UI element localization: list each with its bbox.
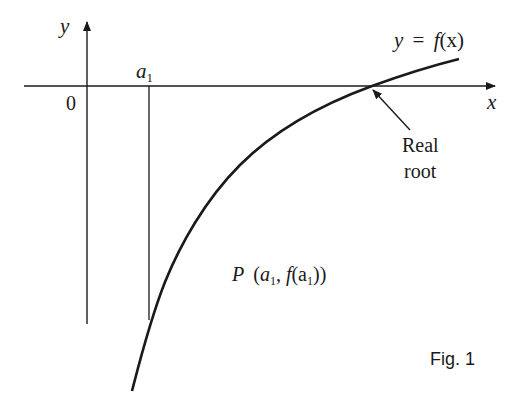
curve-label: y = f(x) xyxy=(392,28,464,52)
real-root-label-line1: Real xyxy=(402,134,439,156)
origin-label: 0 xyxy=(66,92,76,114)
root-arrow xyxy=(373,90,410,130)
point-p-label: P (a1, f(a1)) xyxy=(231,263,326,288)
figure-caption: Fig. 1 xyxy=(430,349,475,369)
x-axis-label: x xyxy=(486,90,497,114)
y-axis-label: y xyxy=(58,14,70,38)
real-root-label-line2: root xyxy=(404,160,437,182)
newton-method-diagram: y x 0 a1 y = f(x) Real root P (a1, f(a1)… xyxy=(0,0,511,401)
function-curve xyxy=(132,59,459,391)
a1-label: a1 xyxy=(136,59,153,85)
